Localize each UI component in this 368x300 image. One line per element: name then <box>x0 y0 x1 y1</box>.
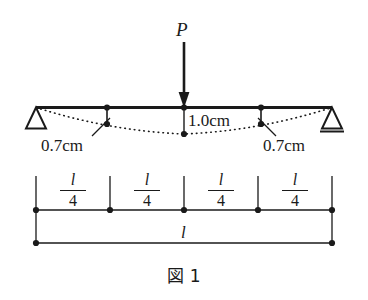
span-node-right <box>329 240 335 246</box>
midspan-deflection-label: 1.0cm <box>188 112 230 129</box>
quarter-left-measure <box>92 104 110 136</box>
segment-node-3 <box>255 207 261 213</box>
quarter-right-beam-node <box>258 104 264 110</box>
segment-fraction-3-denominator: 4 <box>204 191 238 210</box>
quarter-right-measure <box>258 104 276 136</box>
midspan-beam-node <box>181 104 187 110</box>
roller-triangle <box>322 108 342 129</box>
pin-triangle <box>26 108 46 129</box>
segment-fraction-4-numerator: l <box>278 172 312 190</box>
load-label: P <box>176 20 188 39</box>
right-support-roller <box>320 108 344 132</box>
segment-node-2 <box>181 207 187 213</box>
segment-fraction-2-numerator: l <box>130 172 164 190</box>
left-support-pin <box>26 108 46 129</box>
figure-container: P 1.0cm 0.7cm 0.7cm l 4 l 4 l 4 l 4 l 図 … <box>0 0 368 300</box>
midspan-curve-node <box>181 131 187 137</box>
total-span-label: l <box>181 224 186 241</box>
segment-fraction-1: l 4 <box>56 172 90 210</box>
quarter-left-beam-node <box>104 104 110 110</box>
quarter-left-deflection-label: 0.7cm <box>41 137 83 154</box>
segment-fraction-2-denominator: 4 <box>130 191 164 210</box>
segment-fraction-1-denominator: 4 <box>56 191 90 210</box>
segment-fraction-3: l 4 <box>204 172 238 210</box>
segment-fraction-3-numerator: l <box>204 172 238 190</box>
segment-fraction-1-numerator: l <box>56 172 90 190</box>
load-arrow-group <box>179 42 190 108</box>
segment-fraction-2: l 4 <box>130 172 164 210</box>
segment-node-1 <box>107 207 113 213</box>
segment-fraction-4-denominator: 4 <box>278 191 312 210</box>
span-node-left <box>33 240 39 246</box>
figure-caption: 図 1 <box>0 262 368 287</box>
midspan-measure <box>181 104 187 137</box>
quarter-right-deflection-label: 0.7cm <box>263 137 305 154</box>
segment-fraction-4: l 4 <box>278 172 312 210</box>
